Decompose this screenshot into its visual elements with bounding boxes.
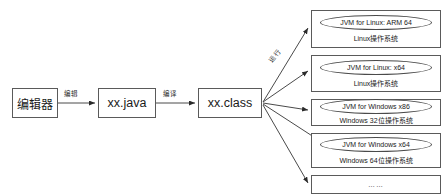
node-java-source-label: xx.java	[108, 96, 147, 110]
node-java-source: xx.java	[98, 88, 156, 118]
jvm-oval: JVM for Windows x86	[320, 99, 432, 114]
jvm-label: JVM for Windows x64	[342, 141, 410, 148]
jvm-label: JVM for Windows x86	[342, 103, 410, 110]
jvm-oval: JVM for Windows x64	[320, 137, 432, 152]
os-label: Windows 64位操作系统	[339, 155, 412, 165]
os-label: Linux操作系统	[354, 33, 399, 43]
edge-run-5	[263, 105, 308, 183]
jvm-oval: JVM for Linux: ARM 64	[320, 15, 432, 30]
edge-label-compile: 编译	[163, 88, 177, 98]
node-editor-label: 编辑器	[17, 95, 53, 112]
node-class-file: xx.class	[198, 88, 262, 118]
jvm-label: JVM for Linux: x64	[347, 64, 405, 71]
edge-run-1	[263, 28, 308, 102]
platform-box-more: ……	[311, 175, 441, 194]
os-label: Linux操作系统	[354, 78, 399, 88]
edge-run-2	[263, 71, 308, 102]
jvm-oval: JVM for Linux: x64	[320, 60, 432, 75]
node-editor: 编辑器	[12, 88, 58, 118]
node-class-file-label: xx.class	[208, 96, 252, 110]
os-label: Windows 32位操作系统	[339, 115, 412, 125]
platform-box-linux-x64: JVM for Linux: x64 Linux操作系统	[311, 55, 441, 92]
edge-label-edit: 编辑	[64, 88, 78, 98]
platform-box-linux-arm64: JVM for Linux: ARM 64 Linux操作系统	[311, 10, 441, 48]
platform-box-windows-x86: JVM for Windows x86 Windows 32位操作系统	[311, 99, 441, 126]
diagram-canvas: 编辑器 xx.java xx.class 编辑 编译 运行 JVM for Li…	[0, 0, 441, 195]
edge-run-3	[263, 103, 308, 110]
edge-label-run: 运行	[266, 47, 282, 64]
platform-box-windows-x64: JVM for Windows x64 Windows 64位操作系统	[311, 133, 441, 168]
jvm-label: JVM for Linux: ARM 64	[340, 19, 412, 26]
ellipsis-label: ……	[368, 181, 384, 188]
